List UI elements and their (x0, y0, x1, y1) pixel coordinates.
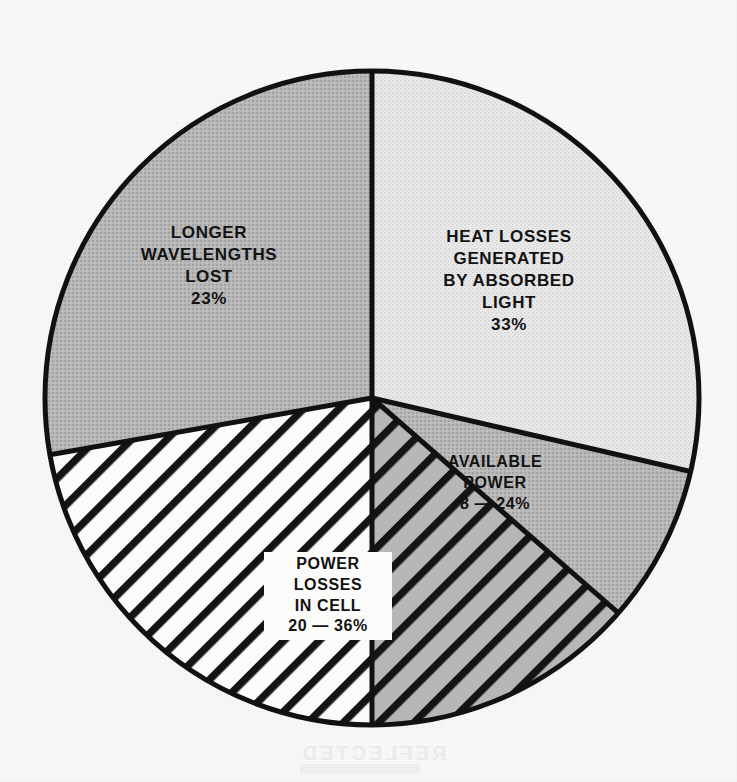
slice-label-power-losses-in-cell: POWER LOSSES IN CELL 20 — 36% (264, 552, 392, 640)
label-line: LOST (104, 266, 314, 288)
label-line: GENERATED (400, 248, 618, 270)
slice-label-heat-losses: HEAT LOSSES GENERATED BY ABSORBED LIGHT … (400, 226, 618, 336)
pie-chart: LONGER WAVELENGTHS LOST 23% HEAT LOSSES … (0, 0, 737, 782)
label-value: 8 — 24% (418, 494, 572, 515)
label-line: LONGER (104, 222, 314, 244)
label-line: BY ABSORBED (400, 270, 618, 292)
label-value: 20 — 36% (267, 616, 389, 637)
slice-label-longer-wavelengths-lost: LONGER WAVELENGTHS LOST 23% (104, 222, 314, 310)
label-line: LIGHT (400, 292, 618, 314)
figure-page: LONGER WAVELENGTHS LOST 23% HEAT LOSSES … (0, 0, 737, 782)
label-value: 33% (400, 314, 618, 336)
label-line: LOSSES (267, 575, 389, 596)
label-line: AVAILABLE (418, 452, 572, 473)
label-line: POWER (267, 554, 389, 575)
pie-chart-svg (0, 0, 737, 782)
label-value: 23% (104, 288, 314, 310)
label-line: WAVELENGTHS (104, 244, 314, 266)
label-line: IN CELL (267, 596, 389, 617)
label-line: HEAT LOSSES (400, 226, 618, 248)
label-line: POWER (418, 473, 572, 494)
slice-label-available-power: AVAILABLE POWER 8 — 24% (418, 452, 572, 514)
